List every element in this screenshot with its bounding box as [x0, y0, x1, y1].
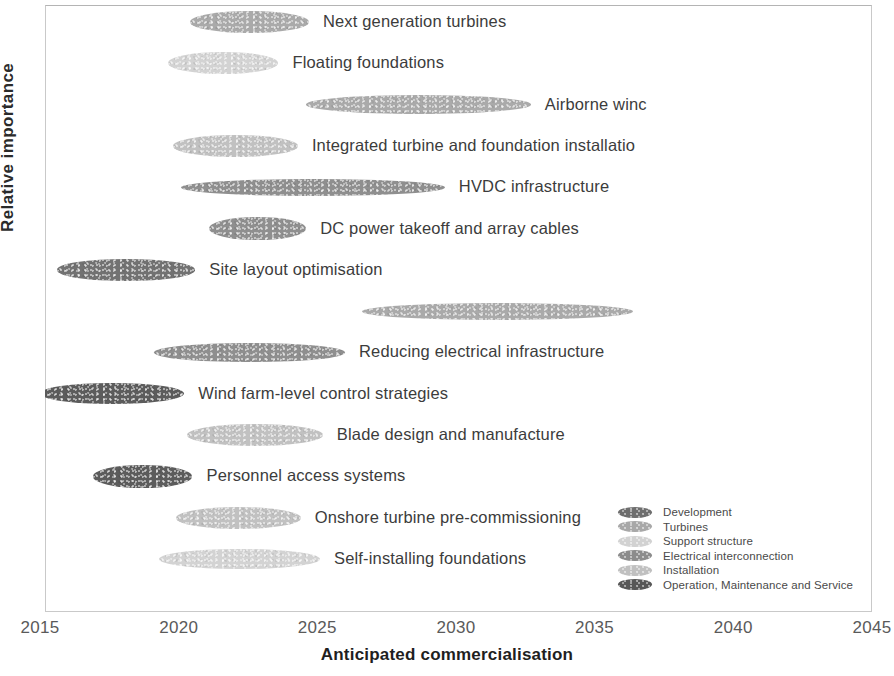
- legend-swatch-operation_maintenance_service: [618, 579, 652, 590]
- bubble-label: Blade design and manufacture: [337, 425, 565, 444]
- legend-swatch-electrical_interconnection: [618, 550, 652, 561]
- technology-bubble[interactable]: [57, 259, 196, 280]
- legend-label: Development: [663, 506, 732, 518]
- technology-bubble[interactable]: [176, 507, 301, 529]
- bubble-label: Reducing electrical infrastructure: [359, 342, 604, 361]
- x-tick-label: 2035: [555, 618, 635, 638]
- legend-label: Installation: [663, 564, 719, 576]
- technology-bubble[interactable]: [93, 465, 193, 488]
- bubble-label: Next generation turbines: [323, 12, 506, 31]
- technology-bubble[interactable]: [159, 549, 320, 570]
- legend-swatch-installation: [618, 565, 652, 576]
- x-tick-label: 2015: [0, 618, 80, 638]
- technology-bubble[interactable]: [168, 52, 279, 74]
- bubble-label: Integrated turbine and foundation instal…: [312, 136, 635, 155]
- bubble-label: Floating foundations: [292, 53, 444, 72]
- technology-bubble[interactable]: [173, 135, 298, 157]
- technology-bubble[interactable]: [187, 424, 323, 446]
- legend-item[interactable]: Development: [618, 505, 853, 520]
- legend-item[interactable]: Operation, Maintenance and Service: [618, 578, 853, 593]
- technology-bubble[interactable]: [45, 383, 184, 404]
- roadmap-chart-figure: Next generation turbinesFloating foundat…: [0, 0, 894, 676]
- legend-item[interactable]: Electrical interconnection: [618, 549, 853, 564]
- bubble-label: Self-installing foundations: [334, 549, 526, 568]
- bubble-label: HVDC infrastructure: [459, 177, 609, 196]
- technology-bubble[interactable]: [362, 303, 634, 320]
- x-tick-label: 2045: [832, 618, 894, 638]
- x-tick-label: 2025: [277, 618, 357, 638]
- legend-swatch-turbines: [618, 521, 652, 532]
- legend-swatch-support_structure: [618, 536, 652, 547]
- x-tick-label: 2040: [693, 618, 773, 638]
- legend-item[interactable]: Turbines: [618, 520, 853, 535]
- bubble-label: Personnel access systems: [207, 466, 406, 485]
- y-axis-title: Relative importance: [0, 32, 18, 232]
- x-axis-title: Anticipated commercialisation: [0, 645, 894, 665]
- bubble-label: Airborne winc: [545, 95, 647, 114]
- bubble-label: Onshore turbine pre-commissioning: [315, 508, 581, 527]
- technology-bubble[interactable]: [306, 95, 531, 114]
- legend-label: Support structure: [663, 535, 753, 547]
- legend-label: Electrical interconnection: [663, 550, 793, 562]
- legend-item[interactable]: Installation: [618, 563, 853, 578]
- technology-bubble[interactable]: [154, 343, 345, 363]
- legend-label: Operation, Maintenance and Service: [663, 579, 853, 591]
- legend-label: Turbines: [663, 521, 708, 533]
- technology-bubble[interactable]: [190, 11, 309, 33]
- bubble-label: Wind farm-level control strategies: [198, 384, 448, 403]
- legend: DevelopmentTurbinesSupport structureElec…: [618, 505, 853, 592]
- legend-item[interactable]: Support structure: [618, 534, 853, 549]
- x-tick-label: 2020: [139, 618, 219, 638]
- technology-bubble[interactable]: [209, 217, 306, 240]
- x-tick-label: 2030: [416, 618, 496, 638]
- bubble-label: Site layout optimisation: [209, 260, 382, 279]
- technology-bubble[interactable]: [181, 179, 444, 196]
- bubble-label: DC power takeoff and array cables: [320, 219, 579, 238]
- legend-swatch-development: [618, 507, 652, 518]
